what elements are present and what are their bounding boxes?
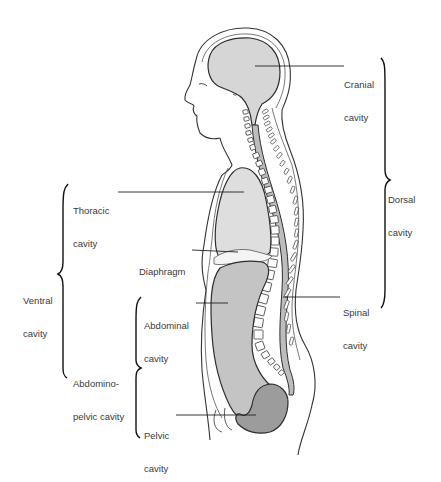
label-cranial-cavity: Cranial cavity [344,57,374,134]
label-dorsal-cavity: Dorsal cavity [388,172,415,249]
label-spinal-cavity: Spinal cavity [343,285,369,362]
label-pelvic-cavity: Pelvic cavity [144,408,169,482]
label-ventral-cavity: Ventral cavity [23,273,53,350]
label-abdominal-cavity: Abdominal cavity [144,298,189,375]
ventral-brace [58,184,68,378]
label-abdominopelvic-cavity: Abdomino- pelvic cavity [73,356,124,433]
label-diaphragm: Diaphragm [139,244,185,288]
body-cavities-illustration [0,0,441,482]
label-thoracic-cavity: Thoracic cavity [73,183,109,260]
abdominopelvic-brace [136,297,141,438]
